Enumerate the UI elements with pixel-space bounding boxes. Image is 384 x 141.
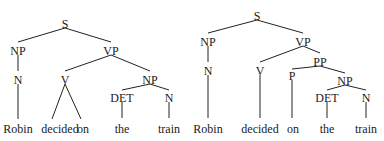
leaf-word-train: train	[158, 122, 180, 136]
leaf-word-on: on	[287, 122, 299, 136]
leaf-word-robin: Robin	[3, 122, 32, 136]
tree-node-s: S	[62, 17, 69, 31]
tree-edge	[65, 28, 111, 42]
tree-node-np: NP	[337, 74, 353, 88]
tree-node-s: S	[254, 9, 261, 23]
tree-node-n: N	[14, 73, 23, 87]
tree-edge	[257, 20, 303, 33]
leaf-word-train: train	[355, 122, 377, 136]
tree-node-det: DET	[315, 91, 339, 105]
leaf-word-the: the	[115, 122, 130, 136]
tree-node-np: NP	[200, 35, 216, 49]
leaf-word-decided: decided	[41, 122, 78, 136]
tree-node-np: NP	[10, 44, 26, 58]
leaf-word-the: the	[320, 122, 335, 136]
tree-edge	[18, 28, 65, 42]
tree-node-n: N	[165, 91, 174, 105]
leaf-word-decided: decided	[241, 122, 278, 136]
tree-edge	[52, 84, 65, 119]
tree-node-vp: VP	[103, 44, 119, 58]
tree-edge	[65, 84, 81, 119]
tree-edge	[208, 20, 257, 33]
parse-tree-left: SNPVPNVNPDETNRobindecidedonthetrain	[3, 17, 180, 136]
tree-node-vp: VP	[295, 35, 311, 49]
parse-tree-diagram: SNPVPNVNPDETNRobindecidedonthetrain SNPV…	[0, 0, 384, 141]
tree-node-n: N	[204, 64, 213, 78]
tree-node-v: V	[61, 73, 70, 87]
tree-node-det: DET	[110, 91, 134, 105]
leaf-word-robin: Robin	[193, 122, 222, 136]
tree-node-n: N	[362, 91, 371, 105]
tree-node-np: NP	[142, 73, 158, 87]
leaf-word-on: on	[77, 122, 89, 136]
tree-node-p: P	[289, 69, 296, 83]
tree-node-pp: PP	[313, 55, 327, 69]
parse-tree-right: SNPVPNVPPPNPDETNRobindecidedonthetrain	[193, 9, 377, 136]
tree-node-v: V	[256, 64, 265, 78]
